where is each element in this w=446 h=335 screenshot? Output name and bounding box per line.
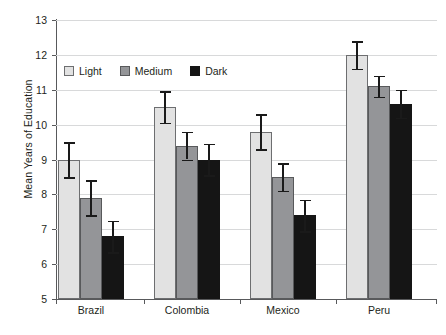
- error-bar-brazil-light: [68, 142, 70, 177]
- error-cap-lower: [86, 215, 97, 217]
- error-bar-colombia-light: [164, 91, 166, 122]
- y-tick-mark-11: [52, 90, 56, 91]
- chart-legend: LightMediumDark: [64, 65, 245, 77]
- plot-area: 1312111098765: [56, 20, 437, 299]
- bar-group-colombia: [154, 20, 220, 299]
- error-cap-upper: [352, 41, 363, 43]
- error-bar-colombia-dark: [208, 144, 210, 175]
- error-bar-brazil-medium: [90, 180, 92, 215]
- error-cap-lower: [108, 252, 119, 254]
- x-axis-tick: [56, 299, 57, 304]
- error-cap-upper: [300, 200, 311, 202]
- y-tick-label: 7: [41, 223, 47, 235]
- bar-peru-dark[interactable]: [390, 104, 412, 299]
- error-cap-lower: [374, 97, 385, 99]
- x-axis-label-peru: Peru: [332, 304, 426, 316]
- error-bar-mexico-dark: [304, 200, 306, 231]
- legend-label: Light: [79, 65, 102, 77]
- x-axis-tick: [240, 299, 241, 304]
- error-cap-upper: [160, 91, 171, 93]
- y-tick-label: 9: [41, 154, 47, 166]
- error-bar-mexico-medium: [282, 163, 284, 191]
- error-bar-brazil-dark: [112, 221, 114, 252]
- y-tick-mark-13: [52, 20, 56, 21]
- legend-swatch-medium: [120, 66, 130, 76]
- bar-group-mexico: [250, 20, 316, 299]
- legend-item-dark[interactable]: Dark: [190, 65, 245, 77]
- error-bar-mexico-light: [260, 114, 262, 149]
- error-bar-peru-medium: [378, 76, 380, 97]
- error-cap-upper: [278, 163, 289, 165]
- error-cap-lower: [352, 69, 363, 71]
- y-tick-label: 13: [35, 14, 47, 26]
- y-tick-mark-6: [52, 264, 56, 265]
- y-tick-label: 10: [35, 119, 47, 131]
- error-cap-upper: [256, 114, 267, 116]
- error-cap-lower: [396, 118, 407, 120]
- error-cap-lower: [278, 191, 289, 193]
- legend-swatch-light: [64, 66, 74, 76]
- x-axis-line: [56, 299, 437, 300]
- error-cap-upper: [86, 180, 97, 182]
- bar-group-peru: [346, 20, 412, 299]
- y-tick-mark-10: [52, 125, 56, 126]
- y-tick-mark-9: [52, 160, 56, 161]
- x-axis-label-colombia: Colombia: [140, 304, 234, 316]
- legend-item-medium[interactable]: Medium: [120, 65, 190, 77]
- y-axis-title: Mean Years of Education: [22, 49, 34, 229]
- error-cap-upper: [396, 90, 407, 92]
- x-axis-tick: [436, 299, 437, 304]
- error-cap-lower: [64, 177, 75, 179]
- bar-colombia-dark[interactable]: [198, 160, 220, 300]
- bar-peru-light[interactable]: [346, 55, 368, 299]
- y-tick-label: 6: [41, 258, 47, 270]
- error-cap-lower: [182, 160, 193, 162]
- error-cap-lower: [160, 123, 171, 125]
- x-axis-tick: [144, 299, 145, 304]
- error-bar-peru-dark: [400, 90, 402, 118]
- x-axis-label-mexico: Mexico: [236, 304, 330, 316]
- y-tick-mark-7: [52, 229, 56, 230]
- bar-colombia-medium[interactable]: [176, 146, 198, 299]
- y-tick-mark-8: [52, 194, 56, 195]
- error-cap-upper: [204, 144, 215, 146]
- x-axis-label-brazil: Brazil: [44, 304, 138, 316]
- error-cap-upper: [182, 132, 193, 134]
- y-tick-mark-12: [52, 55, 56, 56]
- error-cap-upper: [64, 142, 75, 144]
- y-tick-label: 8: [41, 188, 47, 200]
- bar-brazil-light[interactable]: [58, 160, 80, 300]
- y-tick-label: 11: [36, 84, 47, 96]
- error-cap-upper: [374, 76, 385, 78]
- legend-label: Medium: [135, 65, 172, 77]
- error-cap-lower: [300, 231, 311, 233]
- bar-mexico-light[interactable]: [250, 132, 272, 299]
- error-bar-peru-light: [356, 41, 358, 69]
- error-cap-lower: [204, 175, 215, 177]
- bar-chart: Mean Years of Education 1312111098765 Br…: [0, 0, 446, 335]
- bar-group-brazil: [58, 20, 124, 299]
- x-axis-tick: [336, 299, 337, 304]
- legend-swatch-dark: [190, 66, 200, 76]
- y-tick-label: 12: [35, 49, 47, 61]
- legend-item-light[interactable]: Light: [64, 65, 120, 77]
- bar-peru-medium[interactable]: [368, 86, 390, 299]
- bar-mexico-medium[interactable]: [272, 177, 294, 299]
- legend-label: Dark: [205, 65, 227, 77]
- bar-colombia-light[interactable]: [154, 107, 176, 299]
- error-cap-upper: [108, 221, 119, 223]
- error-cap-lower: [256, 149, 267, 151]
- error-bar-colombia-medium: [186, 132, 188, 160]
